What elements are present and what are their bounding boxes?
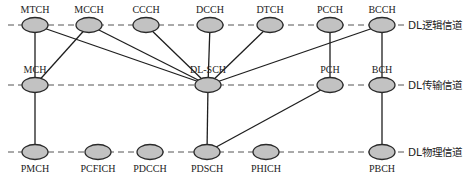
node-label-pbch: PBCH xyxy=(369,163,395,174)
node-label-bcch: BCCH xyxy=(368,4,395,15)
nodes xyxy=(22,18,395,160)
layer-label-physical: DL物理信道 xyxy=(408,146,463,158)
node-label-pdcch: PDCCH xyxy=(133,163,166,174)
node-label-pdsch: PDSCH xyxy=(191,163,223,174)
node-pmch xyxy=(22,145,48,160)
node-label-phich: PHICH xyxy=(251,163,281,174)
node-mcch xyxy=(76,18,102,33)
node-label-mtch: MTCH xyxy=(21,4,50,15)
node-pdcch xyxy=(137,145,163,160)
edge-ccch-dlsch xyxy=(146,25,208,85)
node-phich xyxy=(253,145,279,160)
node-label-ccch: CCCH xyxy=(132,4,159,15)
node-bcch xyxy=(369,18,395,33)
node-pbch xyxy=(369,145,395,160)
node-pch xyxy=(317,78,343,93)
node-dtch xyxy=(257,18,283,33)
node-label-dcch: DCCH xyxy=(196,4,224,15)
edge-mtch-dlsch xyxy=(35,25,208,85)
node-label-pcch: PCCH xyxy=(317,4,343,15)
edge-bcch-dlsch xyxy=(208,25,382,85)
node-pcfich xyxy=(85,145,111,160)
node-label-mch: MCH xyxy=(24,64,47,75)
node-bch xyxy=(369,78,395,93)
node-label-bch: BCH xyxy=(372,64,393,75)
node-ccch xyxy=(133,18,159,33)
channel-mapping-diagram: DL逻辑信道DL传输信道DL物理信道MTCHMCCHCCCHDCCHDTCHPC… xyxy=(0,0,470,184)
node-label-dlsch: DL-SCH xyxy=(190,64,226,75)
node-mch xyxy=(22,78,48,93)
layer-label-transport: DL传输信道 xyxy=(408,79,463,91)
node-pcch xyxy=(317,18,343,33)
node-label-pcfich: PCFICH xyxy=(80,163,115,174)
edge-dcch-dlsch xyxy=(208,25,210,85)
edge-pch-pdsch xyxy=(207,85,330,152)
layer-label-logical: DL逻辑信道 xyxy=(408,19,463,31)
edge-mcch-dlsch xyxy=(89,25,208,85)
node-label-pmch: PMCH xyxy=(21,163,49,174)
node-label-pch: PCH xyxy=(320,64,339,75)
edge-dlsch-pdsch xyxy=(207,85,208,152)
node-pdsch xyxy=(194,145,220,160)
edge-dtch-dlsch xyxy=(208,25,270,85)
node-label-mcch: MCCH xyxy=(74,4,103,15)
node-mtch xyxy=(22,18,48,33)
node-dlsch xyxy=(195,78,221,93)
node-dcch xyxy=(197,18,223,33)
node-label-dtch: DTCH xyxy=(256,4,283,15)
